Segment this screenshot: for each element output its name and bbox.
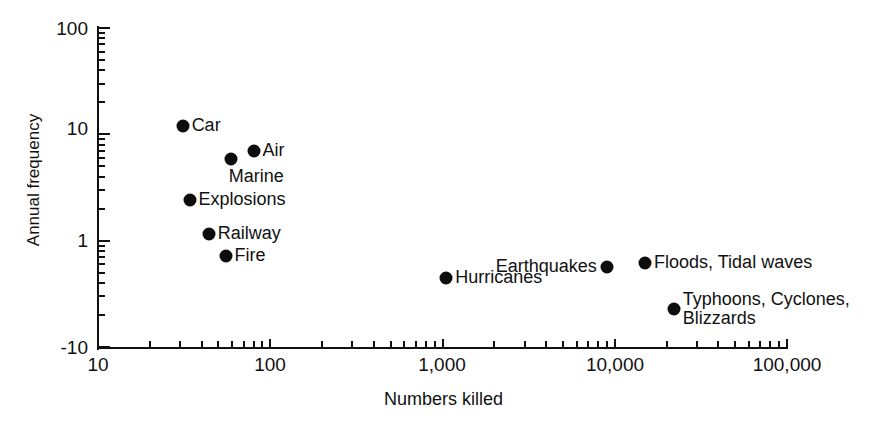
marker-dot-floods-tidal-waves [639, 256, 652, 269]
y-tick-minor [99, 263, 105, 265]
x-tick-minor [351, 341, 353, 347]
y-tick-minor [99, 138, 105, 140]
y-tick-minor [99, 83, 105, 85]
y-tick-minor [99, 32, 105, 34]
x-tick-major [442, 339, 444, 347]
x-tick-minor [403, 341, 405, 347]
y-tick-minor [99, 256, 105, 258]
x-tick-label-100000: 100,000 [753, 354, 822, 376]
y-tick-minor [99, 245, 105, 247]
y-tick-minor [99, 295, 105, 297]
x-tick-minor [666, 341, 668, 347]
y-tick-minor [99, 165, 105, 167]
x-tick-minor [597, 341, 599, 347]
point-label-railway: Railway [218, 225, 281, 244]
x-tick-minor [179, 341, 181, 347]
marker-dot-fire [219, 249, 232, 262]
x-tick-minor [576, 341, 578, 347]
y-tick-minor [99, 189, 105, 191]
y-tick-minor [99, 51, 105, 53]
x-tick-minor [390, 341, 392, 347]
x-tick-minor [201, 341, 203, 347]
y-tick-minor [99, 144, 105, 146]
y-tick-major [99, 240, 110, 242]
marker-dot-air [247, 144, 260, 157]
x-tick-minor [261, 341, 263, 347]
x-tick-minor [373, 341, 375, 347]
y-tick-minor [99, 176, 105, 178]
y-tick-major [99, 27, 110, 29]
marker-dot-typhoons-cyclones [667, 302, 680, 315]
x-tick-minor [748, 341, 750, 347]
marker-dot-hurricanes [440, 271, 453, 284]
x-tick-label-1000: 1,000 [418, 354, 466, 376]
marker-dot-car [176, 119, 189, 132]
y-tick-minor [99, 250, 105, 252]
x-tick-label-10: 10 [87, 354, 108, 376]
y-tick-minor [99, 272, 105, 274]
x-tick-minor [253, 341, 255, 347]
y-tick-minor [99, 157, 105, 159]
x-tick-minor [524, 341, 526, 347]
x-tick-minor [149, 341, 151, 347]
x-tick-minor [415, 341, 417, 347]
y-tick-minor [99, 69, 105, 71]
y-tick-major [99, 133, 110, 135]
x-tick-minor [696, 341, 698, 347]
x-tick-minor [321, 341, 323, 347]
x-tick-minor [217, 341, 219, 347]
x-tick-major [786, 339, 788, 347]
marker-dot-railway [202, 228, 215, 241]
x-tick-minor [769, 341, 771, 347]
x-axis-title: Numbers killed [0, 389, 887, 410]
x-axis-line [97, 347, 788, 349]
x-tick-minor [425, 341, 427, 347]
x-tick-minor [734, 341, 736, 347]
scatter-chart-figure: 100 10 1 -10 10 100 1,000 10,000 100,000… [0, 0, 887, 429]
x-tick-label-100: 100 [254, 354, 286, 376]
x-tick-minor [545, 341, 547, 347]
x-tick-label-10000: 10,000 [586, 354, 644, 376]
marker-dot-explosions [183, 194, 196, 207]
y-tick-minor [99, 43, 105, 45]
x-tick-minor [717, 341, 719, 347]
y-axis-title: Annual frequency [24, 70, 44, 290]
point-label-explosions: Explosions [199, 191, 286, 210]
marker-dot-earthquakes [600, 261, 613, 274]
x-tick-minor [493, 341, 495, 347]
marker-dot-marine [224, 153, 237, 166]
y-tick-minor [99, 101, 105, 103]
y-tick-minor [99, 314, 105, 316]
x-tick-minor [606, 341, 608, 347]
point-label-floods-tidal-waves: Floods, Tidal waves [654, 253, 812, 272]
y-tick-label-0p1: -10 [28, 337, 88, 359]
y-tick-minor [99, 59, 105, 61]
point-label-marine: Marine [229, 168, 284, 187]
x-tick-minor [587, 341, 589, 347]
point-label-fire: Fire [235, 246, 266, 265]
y-tick-label-100: 100 [28, 18, 88, 40]
y-tick-minor [99, 150, 105, 152]
x-tick-minor [778, 341, 780, 347]
point-label-air: Air [263, 141, 285, 160]
x-tick-major [614, 339, 616, 347]
x-tick-minor [231, 341, 233, 347]
point-label-typhoons-cyclones: Typhoons, Cyclones, Blizzards [683, 289, 850, 327]
point-label-car: Car [192, 116, 221, 135]
y-tick-minor [99, 208, 105, 210]
x-tick-minor [243, 341, 245, 347]
y-tick-minor [99, 37, 105, 39]
x-tick-minor [759, 341, 761, 347]
x-tick-major [97, 339, 99, 347]
y-tick-minor [99, 282, 105, 284]
y-tick-major [99, 346, 110, 348]
point-label-earthquakes: Earthquakes [496, 258, 597, 277]
x-tick-minor [434, 341, 436, 347]
x-tick-minor [562, 341, 564, 347]
x-tick-major [269, 339, 271, 347]
